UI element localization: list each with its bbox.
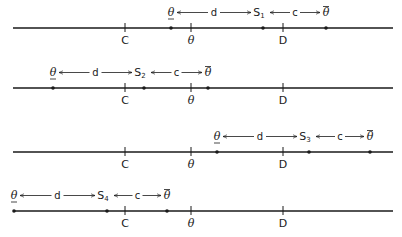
- label-s-main: S: [299, 130, 306, 143]
- diagram-row: CθDθθS2dc: [13, 66, 393, 107]
- tick-label-d: D: [279, 34, 287, 47]
- label-s: S1: [253, 6, 264, 20]
- label-s-main: S: [97, 189, 104, 202]
- point-theta-under: [215, 150, 219, 154]
- tick-label-d: D: [279, 217, 287, 230]
- label-d: d: [54, 190, 60, 201]
- tick-label-d: D: [279, 158, 287, 171]
- tick-label-c: C: [121, 158, 129, 171]
- label-s: S2: [134, 66, 145, 80]
- label-c: c: [135, 190, 141, 201]
- point-theta-under: [169, 26, 173, 30]
- point-s: [307, 150, 311, 154]
- label-theta-over: θ: [323, 6, 330, 19]
- point-theta-under: [12, 209, 16, 213]
- point-s: [105, 209, 109, 213]
- label-d: d: [257, 131, 263, 142]
- tick-label-theta: θ: [188, 34, 195, 47]
- tick-label-d: D: [279, 94, 287, 107]
- label-s-main: S: [253, 6, 260, 19]
- point-theta-over: [165, 209, 169, 213]
- point-s: [261, 26, 265, 30]
- label-theta-under: θ: [11, 189, 18, 202]
- label-d: d: [211, 7, 217, 18]
- tick-label-theta: θ: [188, 158, 195, 171]
- label-c: c: [292, 7, 298, 18]
- label-theta-over: θ: [164, 189, 171, 202]
- label-d: d: [92, 67, 98, 78]
- label-s-subscript: 3: [306, 136, 310, 144]
- point-theta-over: [324, 26, 328, 30]
- diagram-row: CθDθθS3dc: [13, 130, 393, 171]
- label-theta-under: θ: [50, 66, 57, 79]
- point-s: [142, 86, 146, 90]
- tick-label-c: C: [121, 94, 129, 107]
- diagram-row: CθDθθS1dc: [13, 6, 393, 47]
- label-s-subscript: 4: [104, 195, 109, 203]
- label-s: S3: [299, 130, 310, 144]
- label-c: c: [174, 67, 180, 78]
- label-s-main: S: [134, 66, 141, 79]
- label-theta-over: θ: [367, 130, 374, 143]
- label-s-subscript: 2: [141, 72, 145, 80]
- number-line-diagram: CθDθθS1dcCθDθθS2dcCθDθθS3dcCθDθθS4dc: [0, 0, 402, 237]
- label-theta-under: θ: [214, 130, 221, 143]
- point-theta-under: [51, 86, 55, 90]
- tick-label-c: C: [121, 217, 129, 230]
- tick-label-theta: θ: [188, 217, 195, 230]
- tick-label-c: C: [121, 34, 129, 47]
- label-theta-under: θ: [168, 6, 175, 19]
- point-theta-over: [368, 150, 372, 154]
- label-s-subscript: 1: [260, 12, 264, 20]
- diagram-row: CθDθθS4dc: [11, 189, 393, 230]
- label-theta-over: θ: [205, 66, 212, 79]
- point-theta-over: [206, 86, 210, 90]
- label-s: S4: [97, 189, 109, 203]
- label-c: c: [337, 131, 343, 142]
- tick-label-theta: θ: [188, 94, 195, 107]
